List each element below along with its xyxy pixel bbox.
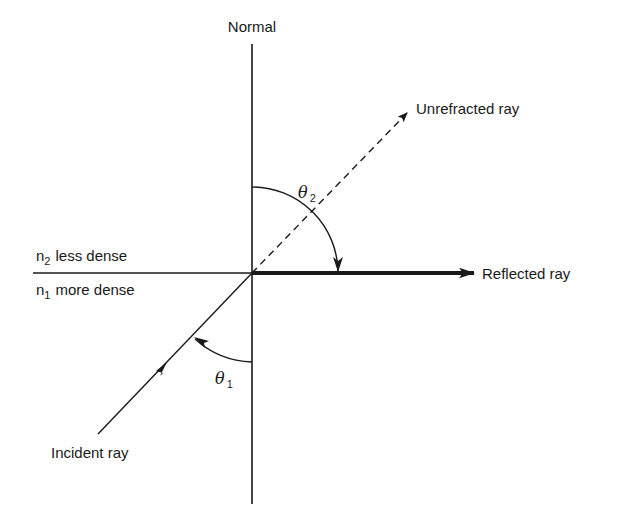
theta2-label: θ2 [298, 183, 316, 204]
normal-label: Normal [228, 18, 276, 35]
incident-ray-label: Incident ray [51, 444, 129, 461]
medium-top-label: n2less dense [36, 247, 127, 267]
unrefracted-ray-label: Unrefracted ray [416, 100, 520, 117]
theta1-arrowhead [194, 337, 209, 348]
theta2-arrowhead [333, 257, 343, 272]
theta1-label: θ1 [215, 369, 233, 390]
unrefracted-ray-line [252, 113, 407, 273]
medium-bottom-label: n1more dense [36, 281, 135, 301]
incident-arrowhead-lower [156, 362, 167, 376]
reflected-ray-label: Reflected ray [482, 265, 571, 282]
total-internal-reflection-diagram: Normal Unrefracted ray Reflected ray Inc… [0, 0, 619, 526]
